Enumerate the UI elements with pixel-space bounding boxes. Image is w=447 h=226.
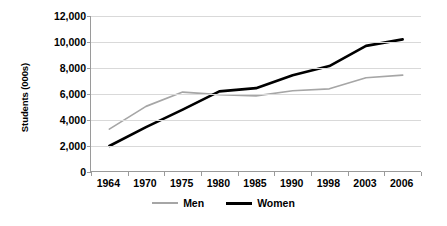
legend-label-men: Men xyxy=(183,198,204,209)
y-tickmark xyxy=(87,146,91,147)
series-line-women xyxy=(109,39,402,146)
x-tickmark xyxy=(384,172,385,176)
y-tickmark xyxy=(87,42,91,43)
y-tick-label: 8,000 xyxy=(32,63,86,74)
x-tick-label: 1970 xyxy=(133,177,156,189)
x-tickmark xyxy=(348,172,349,176)
x-tickmark xyxy=(311,172,312,176)
line-chart: Students (000s) 02,0004,0006,0008,00010,… xyxy=(0,0,447,226)
y-tick-label: 12,000 xyxy=(32,11,86,22)
y-tick-label: 10,000 xyxy=(32,37,86,48)
x-tick-label: 2006 xyxy=(390,177,413,189)
x-tickmark xyxy=(238,172,239,176)
x-tick-label: 1985 xyxy=(243,177,266,189)
x-axis-tick-labels: 196419701975198019851990199820032006 xyxy=(90,177,420,193)
x-tick-label: 2003 xyxy=(353,177,376,189)
gridline xyxy=(91,146,421,147)
legend-item-women[interactable]: Women xyxy=(226,198,295,209)
x-tick-label: 1998 xyxy=(317,177,340,189)
x-tickmark xyxy=(128,172,129,176)
y-tick-label: 4,000 xyxy=(32,115,86,126)
y-tick-label: 0 xyxy=(32,167,86,178)
x-tick-label: 1975 xyxy=(170,177,193,189)
chart-legend: Men Women xyxy=(0,198,447,209)
y-tickmark xyxy=(87,120,91,121)
y-tickmark xyxy=(87,94,91,95)
gridline xyxy=(91,94,421,95)
y-tickmark xyxy=(87,16,91,17)
x-tickmark xyxy=(201,172,202,176)
y-tick-label: 6,000 xyxy=(32,89,86,100)
series-line-men xyxy=(109,75,402,129)
x-tick-label: 1980 xyxy=(207,177,230,189)
x-tickmark xyxy=(91,172,92,176)
x-tick-label: 1964 xyxy=(97,177,120,189)
gridline xyxy=(91,42,421,43)
gridline xyxy=(91,120,421,121)
x-tickmark xyxy=(164,172,165,176)
legend-label-women: Women xyxy=(257,198,295,209)
legend-swatch-men-icon xyxy=(152,202,178,204)
x-tick-label: 1990 xyxy=(280,177,303,189)
x-tickmark xyxy=(421,172,422,176)
plot-area xyxy=(90,16,421,172)
y-axis-tick-labels: 02,0004,0006,0008,00010,00012,000 xyxy=(30,0,86,226)
legend-item-men[interactable]: Men xyxy=(152,198,204,209)
x-tickmark xyxy=(274,172,275,176)
gridline xyxy=(91,16,421,17)
legend-swatch-women-icon xyxy=(226,202,252,205)
y-axis-title: Students (000s) xyxy=(19,28,30,168)
y-tick-label: 2,000 xyxy=(32,141,86,152)
y-tickmark xyxy=(87,68,91,69)
gridline xyxy=(91,68,421,69)
